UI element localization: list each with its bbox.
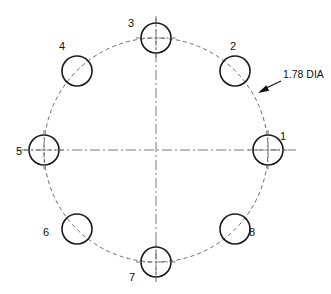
hole-number-label-8: 8 (249, 226, 255, 238)
hole-number-label-7: 7 (129, 271, 135, 283)
hole-number-label-3: 3 (128, 17, 134, 29)
bolt-circle-drawing: 12345678 1.78 DIA (0, 0, 331, 294)
hole-number-label-4: 4 (59, 40, 65, 52)
dimension-leader-group (258, 81, 281, 93)
hole-number-label-1: 1 (280, 130, 286, 142)
leader-arrowhead (258, 85, 269, 93)
dimension-note-group: 1.78 DIA (283, 68, 324, 80)
hole-number-label-2: 2 (230, 40, 236, 52)
hole-circle-6 (62, 214, 92, 244)
hole-number-label-6: 6 (43, 226, 49, 238)
dimension-note-text: 1.78 DIA (283, 68, 324, 80)
hole-number-label-5: 5 (16, 145, 22, 157)
drawing-canvas: 12345678 1.78 DIA (0, 0, 331, 294)
